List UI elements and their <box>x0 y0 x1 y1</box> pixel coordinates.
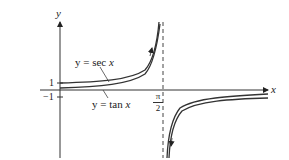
sec-label: y = sec x <box>75 57 114 68</box>
two-denominator: 2 <box>156 103 161 113</box>
tan-label-var: x <box>125 98 130 110</box>
tan-curve-right <box>169 98 268 158</box>
sec-label-var: x <box>109 56 114 68</box>
pi-numerator: π <box>156 91 161 101</box>
tan-leader-line <box>103 90 108 98</box>
tan-label-text: y = tan <box>92 98 125 110</box>
sec-label-text: y = sec <box>75 56 109 68</box>
sec-curve-right <box>167 94 268 158</box>
chart-plot <box>0 0 289 160</box>
tick-label-one: 1 <box>49 78 54 88</box>
y-axis-label: y <box>56 8 61 19</box>
pi-over-two-label: π 2 <box>153 92 163 113</box>
tan-label: y = tan x <box>92 99 130 110</box>
tick-label-neg-one: −1 <box>43 92 54 102</box>
up-arrow-icon <box>150 48 152 56</box>
sec-leader-line <box>100 67 109 82</box>
x-axis-label: x <box>271 84 276 95</box>
